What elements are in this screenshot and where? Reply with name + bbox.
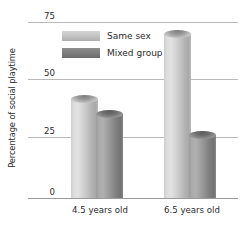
bar-same-sex-6_5-years <box>164 34 191 198</box>
bar-chart: Percentage of social playtime 75 50 25 0 <box>0 0 244 227</box>
legend-swatch-mixed-group <box>62 48 100 58</box>
legend: Same sex Mixed group <box>62 29 163 63</box>
x-tick-label-6_5-years: 6.5 years old <box>152 205 232 215</box>
x-tick-label-4_5-years: 4.5 years old <box>60 205 140 215</box>
y-tick-label-25: 25 <box>25 126 55 136</box>
legend-item-same-sex: Same sex <box>62 29 163 42</box>
bar-mixed-group-6_5-years <box>189 135 216 198</box>
y-tick-label-75: 75 <box>25 11 55 21</box>
y-tick-label-50: 50 <box>25 68 55 78</box>
y-tick-label-0: 0 <box>25 187 55 197</box>
y-axis-title: Percentage of social playtime <box>7 10 17 206</box>
gridline-75 <box>28 22 238 23</box>
bar-cap <box>189 131 216 139</box>
bar-mixed-group-4_5-years <box>96 114 123 199</box>
bar-cap <box>164 30 191 38</box>
gridline-50 <box>28 79 238 80</box>
legend-swatch-same-sex <box>62 31 100 41</box>
gridline-0-baseline <box>28 198 238 199</box>
legend-label-mixed-group: Mixed group <box>107 48 163 58</box>
legend-item-mixed-group: Mixed group <box>62 46 163 59</box>
bar-same-sex-4_5-years <box>71 99 98 198</box>
bar-cap <box>71 95 98 103</box>
legend-label-same-sex: Same sex <box>107 31 151 41</box>
bar-cap <box>96 110 123 118</box>
